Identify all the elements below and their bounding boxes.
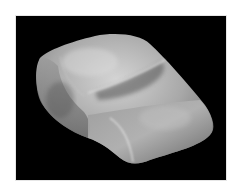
stone-shadow	[46, 82, 74, 118]
stone-highlight	[139, 106, 191, 130]
stone-highlight	[62, 48, 118, 76]
stone-photo	[0, 0, 237, 191]
